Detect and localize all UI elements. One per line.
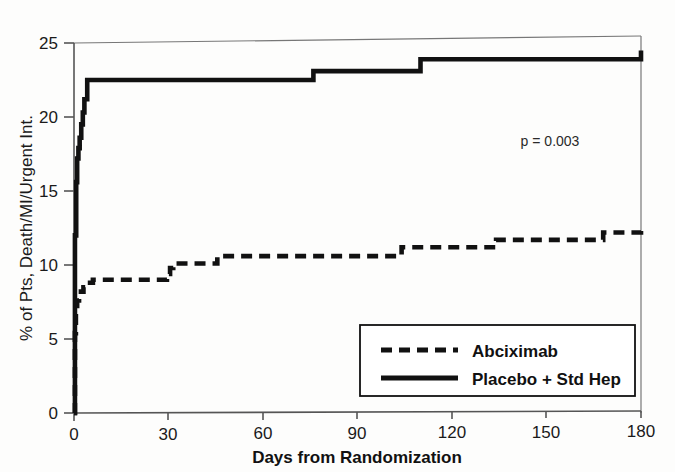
legend-label-abciximab: Abciximab bbox=[472, 342, 558, 361]
y-tick-label-0: 0 bbox=[49, 404, 58, 423]
x-tick-label-60: 60 bbox=[254, 424, 273, 443]
x-tick-label-30: 30 bbox=[159, 425, 178, 444]
legend-label-placebo-std-hep: Placebo + Std Hep bbox=[472, 370, 621, 389]
x-tick-label-120: 120 bbox=[438, 423, 466, 442]
y-tick-label-15: 15 bbox=[39, 182, 58, 201]
chart-figure: 0 5 10 15 20 25 0 30 60 90 120 150 180 bbox=[0, 0, 675, 472]
top-border bbox=[74, 36, 641, 43]
p-value-annotation: p = 0.003 bbox=[521, 133, 580, 149]
y-tick-label-20: 20 bbox=[39, 108, 58, 127]
kaplan-meier-chart: 0 5 10 15 20 25 0 30 60 90 120 150 180 bbox=[0, 0, 675, 472]
x-tick-label-150: 150 bbox=[532, 423, 560, 442]
x-tick-label-90: 90 bbox=[348, 424, 367, 443]
x-axis-title: Days from Randomization bbox=[252, 448, 462, 467]
x-tick-label-180: 180 bbox=[627, 422, 655, 441]
x-tick-label-0: 0 bbox=[69, 425, 78, 444]
y-tick-label-10: 10 bbox=[39, 256, 58, 275]
legend: Abciximab Placebo + Std Hep bbox=[360, 325, 635, 396]
y-tick-label-25: 25 bbox=[39, 34, 58, 53]
x-axis-tick-labels: 0 30 60 90 120 150 180 bbox=[69, 422, 655, 444]
y-axis-tick-labels: 0 5 10 15 20 25 bbox=[39, 34, 58, 423]
y-axis-ticks bbox=[64, 43, 74, 413]
y-axis-title: % of Pts, Death/MI/Urgent Int. bbox=[17, 115, 36, 341]
y-tick-label-5: 5 bbox=[49, 330, 58, 349]
